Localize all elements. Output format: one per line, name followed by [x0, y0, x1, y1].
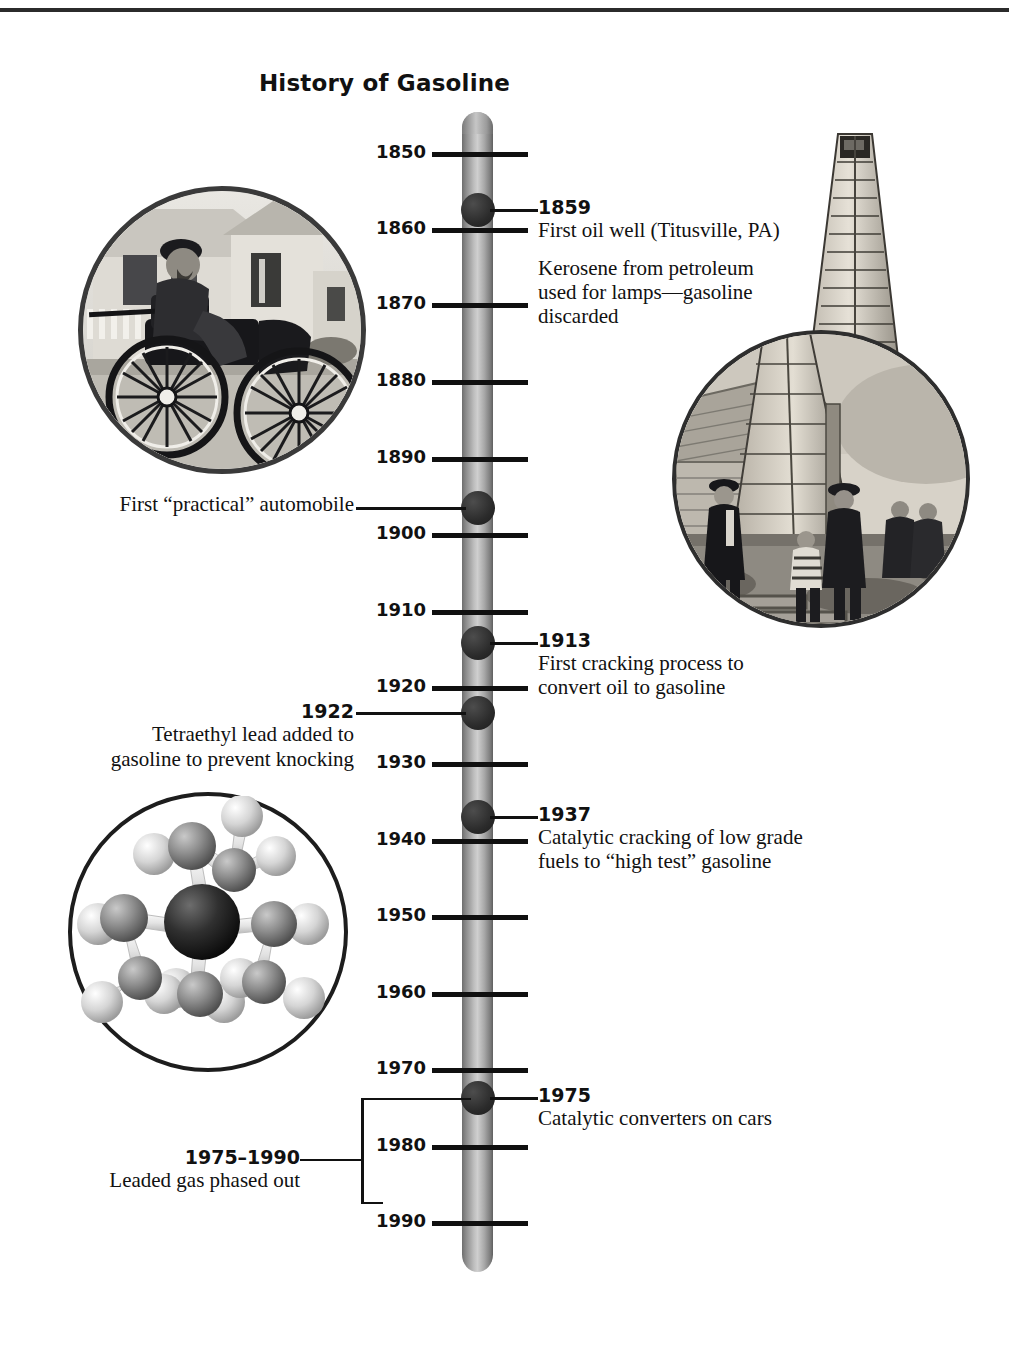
bracket-bottom-connector	[361, 1202, 383, 1204]
axis-year-label-1910: 1910	[330, 599, 426, 620]
event-headline-1859: First oil well (Titusville, PA)	[538, 218, 780, 242]
tetraethyl-lead-molecule	[68, 792, 348, 1072]
axis-year-label-1960: 1960	[330, 981, 426, 1002]
event-headline-1913: First cracking process to convert oil to…	[538, 651, 744, 699]
axis-tick-1930	[432, 762, 528, 767]
event-leader-1913	[490, 642, 538, 645]
event-annotation-1913: 1913 First cracking process to convert o…	[538, 629, 744, 699]
event-leader-1896	[356, 507, 466, 510]
event-annotation-1975-1990: 1975–1990 Leaded gas phased out	[40, 1146, 300, 1193]
axis-tick-1890	[432, 457, 528, 462]
bracket-vertical-1975-1990	[361, 1098, 364, 1204]
event-annotation-1922: 1922 Tetraethyl lead added to gasoline t…	[10, 700, 354, 772]
axis-year-label-1970: 1970	[330, 1057, 426, 1078]
event-headline-automobile: First “practical” automobile	[36, 492, 354, 517]
event-year-1937: 1937	[538, 803, 803, 825]
event-year-1975-1990: 1975–1990	[40, 1146, 300, 1168]
bracket-label-connector	[300, 1159, 362, 1161]
event-body-1859: Kerosene from petroleum used for lamps—g…	[538, 256, 788, 328]
axis-year-label-1980: 1980	[330, 1134, 426, 1155]
event-leader-1975	[490, 1097, 538, 1100]
event-leader-1922	[356, 712, 466, 715]
automobile-photo	[78, 186, 366, 474]
axis-year-label-1850: 1850	[330, 141, 426, 162]
event-annotation-1975: 1975 Catalytic converters on cars	[538, 1084, 772, 1130]
axis-tick-1860	[432, 228, 528, 233]
event-year-1975: 1975	[538, 1084, 772, 1106]
axis-year-label-1880: 1880	[330, 369, 426, 390]
axis-tick-1940	[432, 839, 528, 844]
axis-year-label-1860: 1860	[330, 217, 426, 238]
timeline-page: History of Gasoline	[0, 0, 1009, 1346]
axis-tick-1870	[432, 303, 528, 308]
axis-tick-1910	[432, 610, 528, 615]
axis-tick-1850	[432, 152, 528, 157]
timeline-bar-cap	[462, 112, 493, 134]
axis-tick-1970	[432, 1068, 528, 1073]
axis-tick-1900	[432, 533, 528, 538]
axis-tick-1880	[432, 380, 528, 385]
bracket-top-connector	[361, 1098, 471, 1100]
axis-year-label-1950: 1950	[330, 904, 426, 925]
event-headline-1937: Catalytic cracking of low grade fuels to…	[538, 825, 803, 873]
axis-year-label-1990: 1990	[330, 1210, 426, 1231]
axis-year-label-1890: 1890	[330, 446, 426, 467]
event-headline-1975: Catalytic converters on cars	[538, 1106, 772, 1130]
event-headline-1975-1990: Leaded gas phased out	[40, 1168, 300, 1193]
event-leader-1937	[490, 816, 538, 819]
axis-tick-1990	[432, 1221, 528, 1226]
axis-year-label-1920: 1920	[330, 675, 426, 696]
axis-year-label-1870: 1870	[330, 292, 426, 313]
event-annotation-1859: 1859 First oil well (Titusville, PA)	[538, 196, 780, 242]
axis-tick-1960	[432, 992, 528, 997]
axis-year-label-1900: 1900	[330, 522, 426, 543]
page-top-rule	[0, 8, 1009, 12]
axis-tick-1920	[432, 686, 528, 691]
event-year-1859: 1859	[538, 196, 780, 218]
axis-year-label-1940: 1940	[330, 828, 426, 849]
event-leader-1859	[490, 209, 538, 212]
axis-tick-1950	[432, 915, 528, 920]
oil-derrick-photo	[672, 330, 970, 628]
event-year-1922: 1922	[10, 700, 354, 722]
event-year-1913: 1913	[538, 629, 744, 651]
event-annotation-1937: 1937 Catalytic cracking of low grade fue…	[538, 803, 803, 873]
axis-tick-1980	[432, 1145, 528, 1150]
event-headline-1922: Tetraethyl lead added to gasoline to pre…	[10, 722, 354, 772]
event-dot-1922[interactable]	[461, 696, 495, 730]
event-dot-1896[interactable]	[461, 491, 495, 525]
page-title: History of Gasoline	[0, 70, 889, 96]
